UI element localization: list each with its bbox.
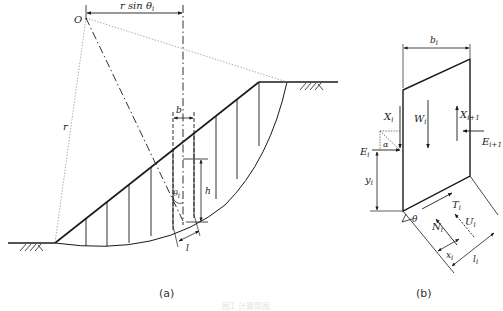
bi-label: bi: [430, 35, 438, 47]
panel-a-caption: (a): [159, 287, 174, 300]
b-label: b: [176, 105, 182, 115]
yi-label: yi: [364, 174, 373, 187]
theta-base-icon: [402, 214, 412, 222]
normal-left-label: Ei: [359, 146, 370, 159]
panel-b: bi Wi Xi+1 Ei+1 Xi α Ei yi θ Ti: [359, 35, 502, 300]
li-label: li: [473, 254, 478, 266]
h-label: h: [205, 186, 211, 196]
theta-i-label: θi: [173, 189, 180, 200]
alpha-label: α: [383, 140, 389, 149]
radius-line-crest: [86, 18, 287, 82]
normal-force-label: Ni: [431, 221, 443, 234]
slice-lines: [86, 82, 259, 246]
li-right-projection: [470, 176, 498, 215]
radius-label: r: [63, 121, 69, 132]
radius-line-toe: [55, 18, 86, 243]
toe-ground-hatch-icon: [20, 244, 43, 251]
pore-pressure-label: Ui: [465, 216, 476, 229]
radius-line-slice: [86, 18, 183, 221]
l-left-tick: [173, 226, 178, 247]
l-dimension-arrow: [179, 231, 199, 241]
center-label: O: [74, 14, 82, 25]
shear-force-arrow: [422, 193, 452, 209]
rsin-label: r sin θi: [120, 0, 154, 13]
figure-caption: 图1 计算简图: [222, 301, 270, 311]
weight-label: Wi: [414, 113, 427, 126]
slope-stability-figure: r sin θi O r b h θi l (a) bi: [0, 0, 503, 311]
shear-force-label: Ti: [452, 199, 461, 212]
crest-ground-hatch-icon: [300, 83, 323, 90]
xi-label: xi: [446, 250, 453, 262]
normal-right-label: Ei+1: [481, 136, 502, 149]
slip-surface-arc: [55, 82, 287, 246]
panel-b-caption: (b): [416, 287, 432, 300]
li-left-projection: [403, 211, 454, 273]
panel-a: r sin θi O r b h θi l (a): [8, 0, 338, 300]
slice-body: [403, 59, 470, 211]
l-label: l: [186, 243, 189, 253]
shear-left-label: Xi: [383, 111, 393, 124]
